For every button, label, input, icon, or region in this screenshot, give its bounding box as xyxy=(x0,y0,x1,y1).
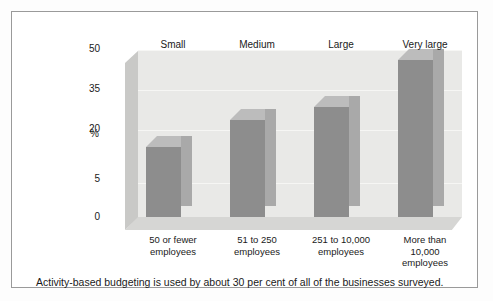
group-label-small: Small xyxy=(131,39,215,50)
category-label-small-line2: employees xyxy=(127,246,219,258)
category-label-medium-line1: 51 to 250 xyxy=(211,234,303,246)
chart-plot-area xyxy=(125,50,462,230)
bar-very-large-front-face xyxy=(398,60,433,217)
y-tick-label-5: 5 xyxy=(12,174,100,184)
figure-frame: 50 35 20 5 0 % xyxy=(11,11,478,288)
category-label-large: 251 to 10,000 employees xyxy=(295,234,387,257)
bar-medium[interactable] xyxy=(230,120,265,217)
y-tick-label-20: 20 xyxy=(12,124,100,134)
category-label-very-large-line2: 10,000 xyxy=(379,246,471,258)
y-axis-title: % xyxy=(90,129,99,139)
category-label-very-large-line1: More than xyxy=(379,234,471,246)
plot-floor xyxy=(125,217,462,230)
bar-large-front-face xyxy=(314,107,349,217)
category-label-large-line2: employees xyxy=(295,246,387,258)
bar-small[interactable] xyxy=(146,147,181,217)
bar-very-large[interactable] xyxy=(398,60,433,217)
y-tick-label-0: 0 xyxy=(12,212,100,222)
category-label-large-line1: 251 to 10,000 xyxy=(295,234,387,246)
bar-small-side-face xyxy=(181,136,192,206)
y-tick-label-50: 50 xyxy=(12,44,100,54)
category-label-small: 50 or fewer employees xyxy=(127,234,219,257)
figure-caption: Activity-based budgeting is used by abou… xyxy=(36,276,476,289)
plot-left-wall xyxy=(125,50,139,230)
bar-large-side-face xyxy=(349,96,360,206)
category-label-medium-line2: employees xyxy=(211,246,303,258)
bar-medium-side-face xyxy=(265,109,276,206)
category-label-small-line1: 50 or fewer xyxy=(127,234,219,246)
group-label-large: Large xyxy=(299,39,383,50)
bar-small-front-face xyxy=(146,147,181,217)
bar-large[interactable] xyxy=(314,107,349,217)
category-label-very-large: More than 10,000 employees xyxy=(379,234,471,269)
group-label-medium: Medium xyxy=(215,39,299,50)
y-tick-label-35: 35 xyxy=(12,84,100,94)
category-label-very-large-line3: employees xyxy=(379,257,471,269)
figure-root: 50 35 20 5 0 % xyxy=(0,0,493,301)
group-label-very-large: Very large xyxy=(383,39,467,50)
bar-medium-front-face xyxy=(230,120,265,217)
category-label-medium: 51 to 250 employees xyxy=(211,234,303,257)
bar-very-large-side-face xyxy=(433,49,444,206)
